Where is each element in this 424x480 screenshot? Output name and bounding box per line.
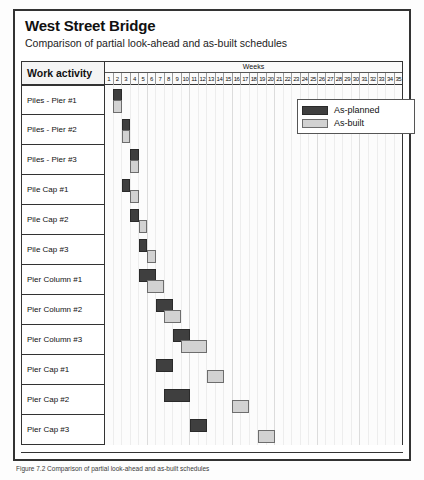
table-row: Pier Column #3 (21, 325, 403, 355)
week-tick-30: 30 (352, 73, 361, 85)
gridline (241, 265, 250, 295)
week-tick-2: 2 (114, 73, 123, 85)
gridlines (105, 175, 402, 205)
gridline (335, 295, 344, 325)
gridline (267, 295, 276, 325)
gridline (292, 415, 301, 445)
gridline (258, 175, 267, 205)
gridline (258, 265, 267, 295)
gridline (148, 355, 157, 385)
gridline (309, 325, 318, 355)
gridline (114, 115, 123, 145)
gridline (369, 145, 378, 175)
gantt-track (105, 235, 403, 265)
gridline (258, 295, 267, 325)
activity-label: Pile Cap #1 (21, 175, 105, 205)
gridline (318, 265, 327, 295)
gridline (378, 295, 387, 325)
gridline (343, 295, 352, 325)
gridline (258, 145, 267, 175)
gridline (360, 235, 369, 265)
gridline (207, 175, 216, 205)
gantt-body: Piles - Pier #1Piles - Pier #2Piles - Pi… (21, 85, 403, 445)
gridline (267, 85, 276, 115)
gantt-bar-as-planned (164, 389, 189, 402)
gridline (216, 85, 225, 115)
week-tick-24: 24 (301, 73, 310, 85)
gridline (250, 145, 259, 175)
gridline (275, 355, 284, 385)
gridline (250, 175, 259, 205)
gridline (258, 115, 267, 145)
gridline (343, 175, 352, 205)
gridline (131, 355, 140, 385)
gridline (156, 175, 165, 205)
week-tick-33: 33 (378, 73, 387, 85)
chart-legend: As-planned As-built (297, 99, 415, 134)
gridline (216, 295, 225, 325)
gantt-bar-as-built (232, 400, 249, 413)
gridline (292, 355, 301, 385)
gridline (369, 175, 378, 205)
gridline (139, 115, 148, 145)
gridline (386, 265, 395, 295)
gridline (165, 325, 174, 355)
gridline (148, 145, 157, 175)
gridline (114, 205, 123, 235)
week-tick-17: 17 (241, 73, 250, 85)
gantt-track (105, 205, 403, 235)
gridline (105, 115, 114, 145)
gridline (343, 265, 352, 295)
gridline (131, 265, 140, 295)
gridline (335, 265, 344, 295)
gridline (165, 85, 174, 115)
gridline (378, 385, 387, 415)
gantt-bar-as-built (258, 430, 275, 443)
gridline (369, 385, 378, 415)
gridline (233, 415, 242, 445)
gridline (233, 265, 242, 295)
gantt-track (105, 295, 403, 325)
gridline (233, 295, 242, 325)
gantt-track (105, 385, 403, 415)
gridline (378, 415, 387, 445)
gridline (224, 265, 233, 295)
gridline (343, 145, 352, 175)
gridline (250, 385, 259, 415)
gridline (275, 385, 284, 415)
gridline (275, 205, 284, 235)
gantt-bar-as-built (181, 340, 206, 353)
week-tick-13: 13 (207, 73, 216, 85)
gridline (275, 415, 284, 445)
gridline (301, 235, 310, 265)
gridline (335, 205, 344, 235)
gridline (360, 265, 369, 295)
gridline (318, 355, 327, 385)
gridline (182, 235, 191, 265)
gridline (267, 115, 276, 145)
week-tick-28: 28 (335, 73, 344, 85)
week-tick-25: 25 (309, 73, 318, 85)
gridline (275, 85, 284, 115)
gridline (105, 145, 114, 175)
gridline (284, 385, 293, 415)
gridline (343, 325, 352, 355)
gridline (122, 265, 131, 295)
gridline (292, 295, 301, 325)
gridline (173, 205, 182, 235)
gridline (241, 235, 250, 265)
gridline (122, 205, 131, 235)
gridline (267, 355, 276, 385)
gridline (148, 115, 157, 145)
gridline (395, 415, 403, 445)
gridline (105, 175, 114, 205)
gridline (318, 145, 327, 175)
gridline (352, 385, 361, 415)
gridline (378, 265, 387, 295)
gridline (284, 265, 293, 295)
weeks-axis-title: Weeks (105, 62, 402, 73)
gridline (301, 175, 310, 205)
gridline (309, 295, 318, 325)
gridline (148, 415, 157, 445)
gridline (241, 85, 250, 115)
